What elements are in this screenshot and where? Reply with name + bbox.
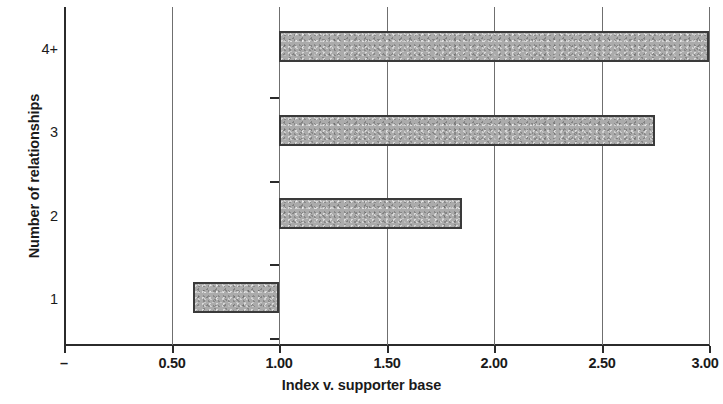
y-axis-title: Number of relationships: [26, 56, 42, 296]
x-axis-tick-label-0-50: 0.50: [132, 355, 212, 371]
y-axis-tick-label-2: 2: [0, 208, 58, 224]
bar-3: [279, 115, 655, 146]
x-axis-tick-1-00: [279, 346, 281, 353]
x-axis-tick-3-00: [709, 346, 711, 353]
y-axis-tick-3: [270, 181, 279, 183]
y-axis-tick-2: [270, 264, 279, 266]
x-axis-tick-label-1-00: 1.00: [239, 355, 319, 371]
x-axis-tick-1-50: [387, 346, 389, 353]
x-axis-tick-0-50: [172, 346, 174, 353]
bar-4plus: [279, 31, 709, 62]
bar-1: [193, 282, 279, 313]
x-axis-tick-label-3-00: 3.00: [665, 355, 723, 371]
gridline-0-50: [172, 7, 173, 345]
x-axis-tick-0: [64, 346, 66, 353]
x-axis-tick-label-2-00: 2.00: [454, 355, 534, 371]
x-axis-tick-2-00: [494, 346, 496, 353]
y-axis-tick-label-3: 3: [0, 124, 58, 140]
y-axis-tick-1: [270, 338, 279, 340]
x-axis-title: Index v. supporter base: [0, 377, 723, 393]
y-axis-tick-label-4plus: 4+: [0, 41, 58, 57]
bar-chart: Number of relationships 4+ 3 2 1: [0, 0, 723, 404]
y-axis-tick-4plus: [270, 97, 279, 99]
y-axis-tick-label-1: 1: [0, 291, 58, 307]
gridline-3-00: [709, 7, 710, 345]
x-axis-tick-2-50: [602, 346, 604, 353]
y-axis-line: [64, 7, 66, 345]
x-axis-tick-label-0: –: [24, 355, 104, 371]
plot-area: – 0.50 1.00 1.50 2.00 2.50 3.00: [64, 7, 709, 345]
bar-2: [279, 198, 462, 229]
x-axis-tick-label-2-50: 2.50: [562, 355, 642, 371]
x-axis-tick-label-1-50: 1.50: [347, 355, 427, 371]
